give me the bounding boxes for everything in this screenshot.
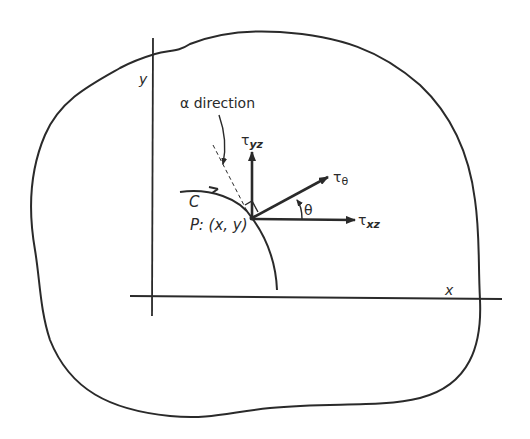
y-axis-label: y (138, 71, 148, 87)
alpha-pointer-arrow-icon (219, 115, 225, 164)
x-axis-label: x (444, 282, 454, 298)
tau-theta-arrow (252, 177, 328, 218)
tau-theta-label: τθ (333, 169, 348, 188)
point-p-label: P: (x, y) (190, 216, 248, 234)
tau-xz-arrow (252, 219, 355, 220)
alpha-direction-line (213, 145, 248, 213)
point-p-marker (250, 216, 255, 221)
theta-label: θ (304, 202, 313, 218)
tau-yz-label: τyz (241, 132, 264, 151)
y-axis (152, 38, 153, 316)
tau-xz-label: τxz (358, 212, 381, 231)
curve-c-label: C (189, 193, 200, 211)
theta-angle-arc (297, 200, 302, 219)
alpha-direction-label: α direction (180, 95, 255, 111)
shear-stress-diagram: y x C P: (x, y) α direction τyz τθ τxz θ (0, 0, 530, 439)
